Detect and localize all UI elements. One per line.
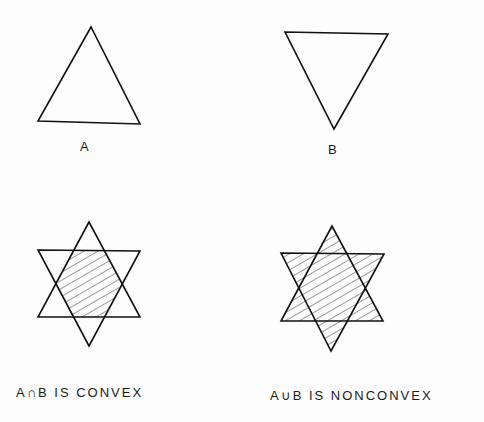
label-b: B [328, 142, 339, 157]
intersection-figure [38, 222, 140, 346]
union-hatched-region [281, 226, 384, 351]
convexity-diagram: A B A∩B IS CONVEX A∪B IS NONCONVEX [0, 0, 484, 422]
triangle-b [285, 32, 388, 129]
intersection-hatched-region [57, 250, 121, 317]
union-figure [281, 226, 384, 351]
label-intersection: A∩B IS CONVEX [16, 385, 143, 400]
label-a: A [80, 139, 91, 154]
label-union: A∪B IS NONCONVEX [270, 388, 433, 403]
triangle-a [38, 27, 140, 124]
figure-graphics [0, 0, 484, 422]
